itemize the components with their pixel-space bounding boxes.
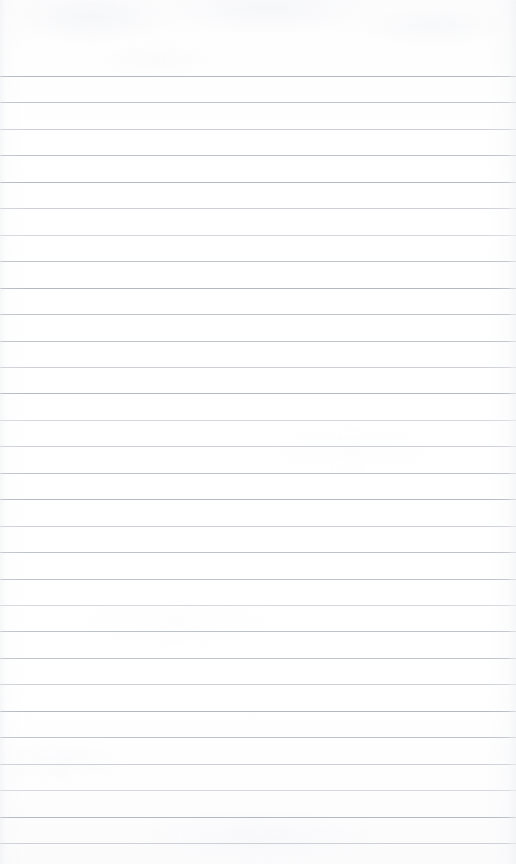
writing-area[interactable] (0, 54, 516, 847)
scanned-page (0, 0, 516, 864)
